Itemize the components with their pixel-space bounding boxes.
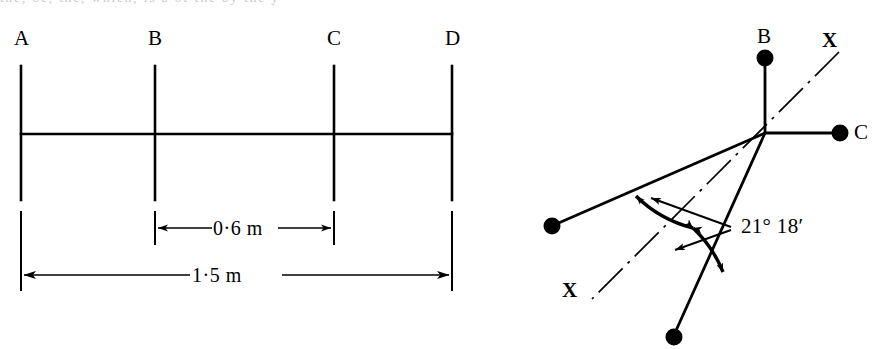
angle-leader-line-upper xyxy=(651,198,731,227)
technical-figure: the, be, the, which, is a of the by the … xyxy=(0,0,887,349)
axis-label-x-top: X xyxy=(822,30,837,51)
dimension-label-ad: 1·5 m xyxy=(192,265,242,285)
station-label-a: A xyxy=(14,28,29,49)
member-line-left xyxy=(554,133,765,225)
dimension-label-bc: 0·6 m xyxy=(213,218,263,238)
diagram-canvas xyxy=(0,0,887,349)
station-label-d: D xyxy=(445,28,460,49)
angle-value-label: 21° 18′ xyxy=(741,216,803,237)
right-diagram-group xyxy=(544,50,849,346)
node-label-c: C xyxy=(854,122,868,143)
node-label-b: B xyxy=(757,26,771,47)
angle-leader-line-lower xyxy=(675,230,731,250)
axis-label-x-bottom: X xyxy=(562,280,577,301)
node-dot-bottom xyxy=(666,329,683,346)
left-diagram-group xyxy=(21,66,452,290)
station-label-c: C xyxy=(327,28,341,49)
node-dot-left xyxy=(544,218,561,235)
node-dot-c xyxy=(832,125,849,142)
angle-arc-upper-half xyxy=(636,196,693,228)
station-label-b: B xyxy=(148,28,162,49)
node-dot-b xyxy=(757,50,774,67)
axis-line-xx xyxy=(592,52,839,299)
